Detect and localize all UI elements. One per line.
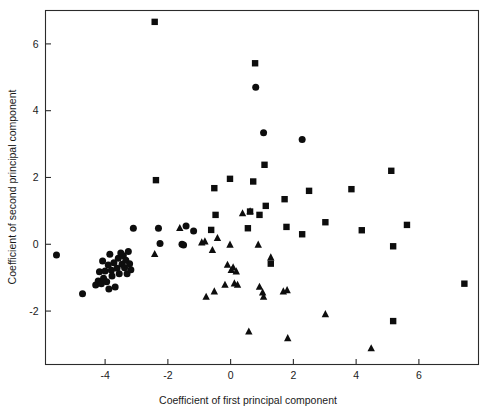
data-point-triangle <box>151 250 158 257</box>
x-axis-title: Coefficient of first principal component <box>159 394 337 406</box>
data-point-square <box>153 177 159 183</box>
x-tick-label: 4 <box>353 369 359 381</box>
data-point-triangle <box>283 286 290 293</box>
data-point-circle <box>127 266 134 273</box>
data-point-circle <box>53 251 60 258</box>
data-point-circle <box>190 227 197 234</box>
data-point-circle <box>155 225 162 232</box>
data-point-triangle <box>245 327 252 334</box>
data-point-triangle <box>202 293 209 300</box>
data-point-square <box>322 219 328 225</box>
data-point-circle <box>109 273 116 280</box>
data-point-circle <box>252 84 259 91</box>
series-square <box>151 19 467 325</box>
x-tick-label: -4 <box>100 369 109 381</box>
data-point-square <box>348 186 354 192</box>
x-tick-label: 2 <box>290 369 296 381</box>
data-point-circle <box>157 240 164 247</box>
data-point-circle <box>103 278 110 285</box>
data-point-circle <box>99 257 106 264</box>
data-point-circle <box>183 222 190 229</box>
data-point-square <box>388 168 394 174</box>
data-point-square <box>252 60 258 66</box>
data-point-square <box>306 188 312 194</box>
y-tick-label: 0 <box>33 238 39 250</box>
y-axis-ticks: -20246 <box>29 38 51 317</box>
data-point-square <box>359 227 365 233</box>
data-point-triangle <box>176 224 183 231</box>
scatter-plot-figure: -4-20246 -20246 Coefficient of first pri… <box>0 0 497 415</box>
data-point-square <box>281 196 287 202</box>
data-point-triangle <box>224 261 231 268</box>
data-point-square <box>283 224 289 230</box>
data-point-circle <box>116 270 123 277</box>
data-point-circle <box>112 284 119 291</box>
data-point-circle <box>102 267 109 274</box>
data-point-triangle <box>211 287 218 294</box>
y-tick-label: 4 <box>33 104 39 116</box>
x-axis-ticks: -4-20246 <box>100 359 422 381</box>
data-point-square <box>263 203 269 209</box>
data-point-square <box>151 19 157 25</box>
data-point-triangle <box>226 241 233 248</box>
data-point-triangle <box>256 283 263 290</box>
x-tick-label: 0 <box>228 369 234 381</box>
x-tick-label: -2 <box>163 369 172 381</box>
data-point-triangle <box>214 234 221 241</box>
data-point-square <box>390 318 396 324</box>
data-point-square <box>261 162 267 168</box>
data-point-square <box>404 222 410 228</box>
data-point-circle <box>106 251 113 258</box>
data-point-triangle <box>267 253 274 260</box>
data-point-square <box>250 178 256 184</box>
data-point-square <box>461 280 467 286</box>
data-point-square <box>390 243 396 249</box>
data-point-circle <box>125 248 132 255</box>
data-point-square <box>245 225 251 231</box>
y-axis-title: Coefficient of second principal componen… <box>6 90 18 285</box>
plot-frame <box>46 11 479 365</box>
x-tick-label: 6 <box>416 369 422 381</box>
data-point-circle <box>130 225 137 232</box>
data-point-square <box>208 227 214 233</box>
data-point-square <box>256 212 262 218</box>
data-points-layer <box>53 19 468 352</box>
scatter-plot-canvas: -4-20246 -20246 Coefficient of first pri… <box>0 0 497 415</box>
data-point-triangle <box>322 310 329 317</box>
data-point-triangle <box>284 334 291 341</box>
y-tick-label: 2 <box>33 171 39 183</box>
data-point-triangle <box>367 344 374 351</box>
data-point-square <box>268 260 274 266</box>
data-point-triangle <box>255 241 262 248</box>
data-point-circle <box>105 286 112 293</box>
data-point-square <box>212 212 218 218</box>
data-point-circle <box>299 136 306 143</box>
data-point-triangle <box>209 246 216 253</box>
data-point-triangle <box>239 209 246 216</box>
data-point-circle <box>79 290 86 297</box>
data-point-circle <box>180 241 187 248</box>
data-point-circle <box>126 260 133 267</box>
data-point-circle <box>260 129 267 136</box>
data-point-square <box>227 176 233 182</box>
data-point-triangle <box>221 281 228 288</box>
y-tick-label: -2 <box>29 305 38 317</box>
y-tick-label: 6 <box>33 38 39 50</box>
data-point-square <box>299 231 305 237</box>
data-point-square <box>211 185 217 191</box>
